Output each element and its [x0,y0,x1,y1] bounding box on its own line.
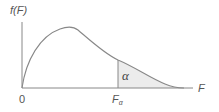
origin-label: 0 [19,94,25,105]
critical-value-subscript: α [119,99,123,106]
shaded-area-label: α [122,69,129,82]
x-axis-label: F [198,83,205,94]
y-axis-label: f(F) [10,5,27,16]
density-curve [22,27,184,88]
critical-value-label: Fα [112,94,123,106]
diagram-graphic [0,0,219,112]
critical-value-main: F [112,93,119,105]
f-distribution-diagram: f(F) F 0 Fα α [0,0,219,112]
